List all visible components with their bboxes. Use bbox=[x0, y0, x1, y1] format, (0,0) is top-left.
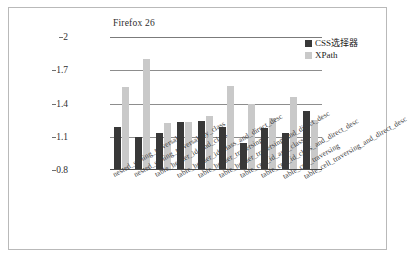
y-tick-label: 1.1 bbox=[56, 132, 68, 142]
legend-item-xpath: XPath bbox=[305, 49, 358, 61]
y-tick-label: 0.8 bbox=[56, 165, 68, 175]
legend-label-css: CSS选择器 bbox=[315, 38, 358, 48]
bar-css bbox=[114, 127, 121, 170]
legend-swatch-icon-xpath bbox=[305, 52, 312, 59]
legend-swatch-icon-css bbox=[305, 40, 312, 47]
bar-xpath bbox=[122, 87, 129, 170]
chart-canvas: Firefox 26 0.81.11.41.72 CSS选择器 XPath ne… bbox=[9, 8, 386, 249]
y-tick-mark bbox=[52, 170, 56, 171]
y-tick-mark bbox=[52, 70, 56, 71]
chart-legend: CSS选择器 XPath bbox=[305, 37, 358, 61]
y-tick-label: 1.7 bbox=[56, 65, 68, 75]
y-tick-mark bbox=[59, 37, 63, 38]
legend-label-xpath: XPath bbox=[315, 50, 338, 60]
chart-title: Firefox 26 bbox=[113, 18, 155, 28]
legend-item-css: CSS选择器 bbox=[305, 37, 358, 49]
y-tick-label: 2 bbox=[63, 32, 68, 42]
y-tick-label: 1.4 bbox=[56, 99, 68, 109]
y-tick-mark bbox=[52, 104, 56, 105]
chart-frame: Firefox 26 0.81.11.41.72 CSS选择器 XPath ne… bbox=[8, 7, 387, 250]
x-axis-category-labels: nested_sibling_traversalnested_sibling_t… bbox=[110, 171, 322, 249]
y-tick-mark bbox=[52, 137, 56, 138]
bar-group bbox=[111, 37, 132, 170]
